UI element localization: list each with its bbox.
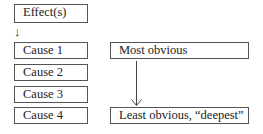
effect-label: Effect(s) xyxy=(23,5,67,19)
cause-box-4: Cause 4 xyxy=(14,107,88,124)
most-obvious-label: Most obvious xyxy=(119,43,187,57)
most-obvious-box: Most obvious xyxy=(110,42,249,59)
cause-label: Cause 2 xyxy=(23,65,63,79)
cause-box-1: Cause 1 xyxy=(14,42,88,59)
cause-box-3: Cause 3 xyxy=(14,86,88,103)
cause-box-2: Cause 2 xyxy=(14,64,88,81)
effect-box: Effect(s) xyxy=(14,4,88,23)
cause-label: Cause 1 xyxy=(23,43,63,57)
cause-label: Cause 3 xyxy=(23,87,63,101)
down-arrow-icon: ↓ xyxy=(14,25,21,38)
least-obvious-label: Least obvious, “deepest” xyxy=(119,108,244,122)
cause-label: Cause 4 xyxy=(23,108,63,122)
least-obvious-box: Least obvious, “deepest” xyxy=(110,107,249,124)
